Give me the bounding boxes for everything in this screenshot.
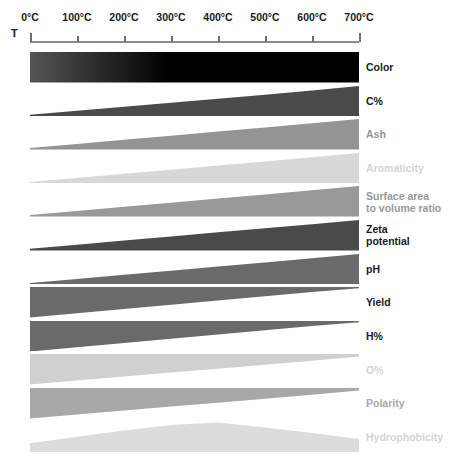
- property-label-yield: Yield: [366, 296, 391, 308]
- band-ash: [30, 119, 359, 150]
- axis-tick-500: [265, 36, 267, 42]
- band-fill-surface-area-to-volume-ratio: [30, 186, 359, 217]
- band-color: [30, 52, 359, 83]
- biochar-property-temperature-figure: T 0°C100°C200°C300°C400°C500°C600°C700°C…: [0, 0, 469, 473]
- axis-tick-400: [218, 36, 220, 42]
- axis-tick-label-100: 100°C: [62, 11, 91, 23]
- band-yield: [30, 287, 359, 318]
- band-fill-polarity: [30, 388, 359, 419]
- property-label-polarity: Polarity: [366, 397, 405, 409]
- axis-tick-700: [359, 33, 361, 42]
- axis-tick-label-0: 0°C: [21, 11, 39, 23]
- property-label-zeta-potential: Zeta potential: [366, 223, 410, 247]
- band-fill-color: [30, 52, 359, 83]
- axis-tick-600: [312, 36, 314, 42]
- property-label-o: O%: [366, 364, 384, 376]
- axis-line: [30, 41, 359, 43]
- property-label-ph: pH: [366, 263, 380, 275]
- band-fill-ash: [30, 119, 359, 150]
- axis-tick-0: [30, 33, 32, 42]
- band-h: [30, 321, 359, 352]
- band-fill-yield: [30, 287, 359, 318]
- band-surface-area-to-volume-ratio: [30, 186, 359, 217]
- band-fill-zeta-potential: [30, 220, 359, 251]
- band-hydrophobicity: [30, 422, 359, 453]
- band-ph: [30, 254, 359, 285]
- property-label-hydrophobicity: Hydrophobicity: [366, 431, 443, 443]
- axis-tick-100: [77, 36, 79, 42]
- axis-tick-label-700: 700°C: [344, 11, 373, 23]
- band-c: [30, 86, 359, 117]
- axis-tick-200: [124, 36, 126, 42]
- axis-tick-label-400: 400°C: [203, 11, 232, 23]
- band-o: [30, 354, 359, 385]
- axis-tick-label-500: 500°C: [250, 11, 279, 23]
- band-fill-c: [30, 86, 359, 117]
- property-label-surface-area-to-volume-ratio: Surface area to volume ratio: [366, 190, 441, 214]
- property-label-h: H%: [366, 330, 383, 342]
- band-fill-hydrophobicity: [30, 422, 359, 452]
- axis-tick-label-200: 200°C: [109, 11, 138, 23]
- axis-variable-label: T: [11, 27, 18, 39]
- band-fill-aromaticity: [30, 153, 359, 184]
- band-aromaticity: [30, 153, 359, 184]
- band-fill-o: [30, 354, 359, 385]
- axis-tick-300: [171, 36, 173, 42]
- axis-tick-label-600: 600°C: [297, 11, 326, 23]
- band-fill-h: [30, 321, 359, 352]
- band-fill-ph: [30, 254, 359, 285]
- property-label-color: Color: [366, 61, 393, 73]
- property-label-ash: Ash: [366, 128, 386, 140]
- band-zeta-potential: [30, 220, 359, 251]
- property-label-aromaticity: Aromaticity: [366, 162, 424, 174]
- axis-tick-label-300: 300°C: [156, 11, 185, 23]
- property-label-c: C%: [366, 95, 383, 107]
- band-polarity: [30, 388, 359, 419]
